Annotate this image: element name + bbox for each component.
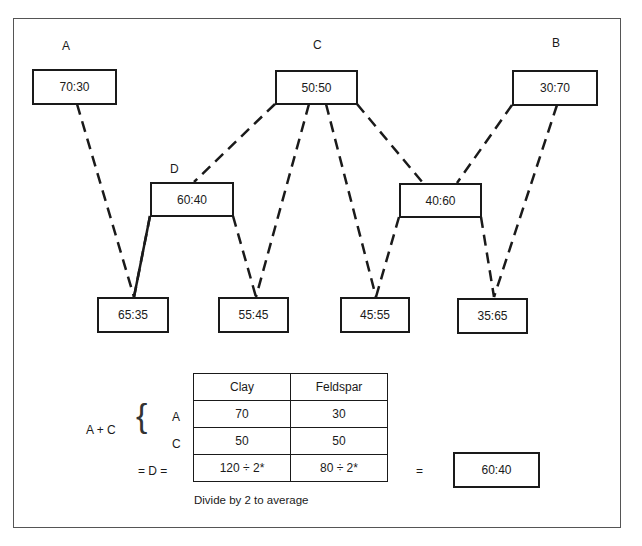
- cell: 80 ÷ 2*: [291, 455, 388, 482]
- ratio-box-35-65: 35:65: [457, 298, 528, 334]
- footnote: Divide by 2 to average: [194, 494, 308, 506]
- ratio-box-b: 30:70: [512, 70, 598, 106]
- ratio-box-a: 70:30: [32, 69, 117, 105]
- node-label-b: B: [552, 36, 560, 50]
- sum-label: A + C: [86, 423, 116, 437]
- equals-sign: =: [416, 464, 423, 478]
- node-label-a: A: [62, 39, 70, 53]
- header-clay: Clay: [194, 374, 291, 401]
- ratio-box-65-35: 65:35: [97, 297, 169, 333]
- table-row: 120 ÷ 2* 80 ÷ 2*: [194, 455, 388, 482]
- ratio-box-55-45: 55:45: [218, 297, 289, 333]
- edge-c-to-55-45: [256, 104, 309, 297]
- cell: 70: [194, 401, 291, 428]
- edge-d-to-55-45: [233, 216, 256, 297]
- cell: 120 ÷ 2*: [194, 455, 291, 482]
- edge-b-to-40-60: [457, 105, 512, 183]
- edge-c-to-45-55: [326, 104, 376, 297]
- edge-c-to-d: [194, 104, 275, 182]
- edge-c-to-40-60: [357, 104, 423, 183]
- cell: 50: [194, 428, 291, 455]
- header-feldspar: Feldspar: [291, 374, 388, 401]
- ratio-box-45-55: 45:55: [340, 297, 410, 333]
- brace-icon: {: [136, 398, 147, 432]
- edge-40-60-to-35-65: [481, 217, 494, 297]
- table-header-row: Clay Feldspar: [194, 374, 388, 401]
- edge-a-to-65-35: [77, 104, 134, 297]
- row-label-a: A: [172, 410, 180, 424]
- node-label-d: D: [170, 162, 179, 176]
- table-row: 70 30: [194, 401, 388, 428]
- ratio-box-c: 50:50: [275, 70, 358, 105]
- table-row: 50 50: [194, 428, 388, 455]
- result-box: 60:40: [453, 452, 540, 488]
- equals-d-label: = D =: [138, 464, 167, 478]
- ratio-box-40-60: 40:60: [399, 183, 482, 218]
- edge-b-to-35-65: [494, 105, 557, 297]
- ratio-box-d: 60:40: [150, 182, 234, 217]
- cell: 30: [291, 401, 388, 428]
- row-label-c: C: [172, 437, 181, 451]
- cell: 50: [291, 428, 388, 455]
- node-label-c: C: [313, 38, 322, 52]
- edge-40-60-to-45-55: [376, 217, 399, 297]
- mix-table: Clay Feldspar 70 30 50 50 120 ÷ 2* 80 ÷ …: [193, 373, 388, 482]
